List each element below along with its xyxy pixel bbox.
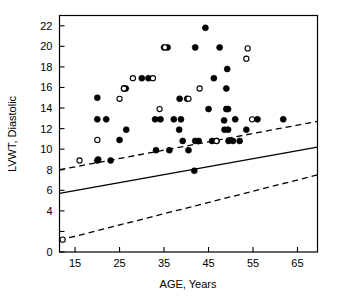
data-point (166, 147, 172, 153)
data-point (244, 56, 249, 61)
data-point (176, 127, 182, 133)
data-point (130, 76, 135, 81)
data-point (150, 76, 155, 81)
data-point (202, 25, 208, 31)
data-point (117, 137, 123, 143)
data-point (94, 116, 100, 122)
data-point (192, 44, 198, 50)
data-point (60, 237, 65, 242)
y-axis-title: LVWT, Diastolic (6, 95, 18, 172)
data-point (180, 138, 186, 144)
y-tick-label-0: 0 (46, 246, 52, 258)
data-point (206, 106, 212, 112)
data-point (230, 138, 236, 144)
data-point (186, 96, 191, 101)
data-point (243, 127, 249, 133)
x-tick-label-25: 25 (113, 257, 125, 269)
y-tick-label-6: 6 (46, 184, 52, 196)
data-point (171, 116, 177, 122)
data-point (191, 168, 197, 174)
y-tick-label-16: 16 (40, 81, 52, 93)
data-point (162, 45, 167, 50)
y-tick-label-10: 10 (40, 143, 52, 155)
data-point (157, 106, 162, 111)
data-point (254, 116, 260, 122)
data-point (178, 116, 184, 122)
y-tick-label-4: 4 (46, 205, 52, 217)
data-point (121, 86, 126, 91)
y-tick-label-14: 14 (40, 102, 52, 114)
data-point (250, 117, 255, 122)
data-point (224, 66, 230, 72)
data-point (117, 96, 122, 101)
data-point (186, 147, 192, 153)
data-point (217, 44, 223, 50)
data-point (123, 127, 129, 133)
data-point (225, 127, 231, 133)
x-tick-label-45: 45 (202, 257, 214, 269)
x-tick-label-55: 55 (247, 257, 259, 269)
data-point (221, 117, 227, 123)
data-point (211, 75, 217, 81)
y-tick-label-8: 8 (46, 164, 52, 176)
y-tick-label-12: 12 (40, 123, 52, 135)
data-point (103, 116, 109, 122)
scatter-plot-figure: 046810121416182022 152535455565 AGE, Yea… (0, 0, 337, 305)
x-axis-title: AGE, Years (160, 278, 217, 290)
data-point (232, 116, 238, 122)
data-point (197, 86, 202, 91)
y-tick-label-22: 22 (40, 20, 52, 32)
data-point (280, 116, 286, 122)
data-point (223, 86, 229, 92)
x-tick-label-15: 15 (69, 257, 81, 269)
data-point (77, 158, 82, 163)
data-point (225, 106, 231, 112)
data-point (214, 138, 219, 143)
data-point (196, 138, 202, 144)
data-point (177, 96, 183, 102)
data-point (139, 75, 145, 81)
y-tick-label-18: 18 (40, 61, 52, 73)
data-point (245, 46, 250, 51)
y-tick-label-20: 20 (40, 40, 52, 52)
x-tick-label-65: 65 (291, 257, 303, 269)
data-point (157, 116, 163, 122)
data-point (153, 147, 159, 153)
plot-canvas: 046810121416182022 152535455565 AGE, Yea… (0, 0, 337, 305)
data-point (95, 156, 101, 162)
data-point (108, 157, 114, 163)
x-tick-label-35: 35 (158, 257, 170, 269)
data-point (237, 138, 243, 144)
data-point (94, 95, 100, 101)
data-point (95, 137, 100, 142)
